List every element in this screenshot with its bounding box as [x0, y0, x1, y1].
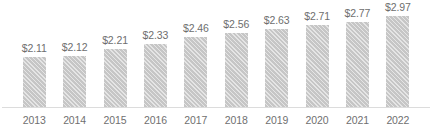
x-axis-label-2014: 2014: [54, 110, 94, 130]
x-axis-label-2020: 2020: [297, 110, 337, 130]
bar[interactable]: [346, 22, 369, 108]
bar[interactable]: [144, 44, 167, 108]
bar-value-label: $2.56: [216, 18, 256, 30]
bar[interactable]: [23, 57, 46, 108]
bar-chart: $2.11 $2.12 $2.21 $2.33 $2.46 $2.56: [0, 0, 432, 136]
bar-group-2014[interactable]: $2.12: [54, 0, 94, 108]
bar[interactable]: [184, 37, 207, 108]
bar-value-label: $2.63: [256, 14, 296, 26]
bar-group-2017[interactable]: $2.46: [176, 0, 216, 108]
bar[interactable]: [386, 16, 409, 108]
bar-value-label: $2.11: [14, 42, 54, 54]
bar-value-label: $2.97: [378, 1, 418, 13]
bar-group-2018[interactable]: $2.56: [216, 0, 256, 108]
bar[interactable]: [265, 29, 288, 108]
x-axis-label-2016: 2016: [135, 110, 175, 130]
plot-area: $2.11 $2.12 $2.21 $2.33 $2.46 $2.56: [0, 0, 432, 108]
bar-value-label: $2.12: [54, 41, 94, 53]
x-axis-label-2022: 2022: [378, 110, 418, 130]
bar-group-2016[interactable]: $2.33: [135, 0, 175, 108]
bar-group-2020[interactable]: $2.71: [297, 0, 337, 108]
bar-group-2019[interactable]: $2.63: [256, 0, 296, 108]
bar-value-label: $2.21: [95, 34, 135, 46]
bar[interactable]: [104, 49, 127, 108]
bar-series: $2.11 $2.12 $2.21 $2.33 $2.46 $2.56: [14, 0, 418, 108]
bar-value-label: $2.33: [135, 29, 175, 41]
x-axis-label-2019: 2019: [256, 110, 296, 130]
bar[interactable]: [225, 33, 248, 108]
bar-value-label: $2.77: [337, 7, 377, 19]
bar-group-2015[interactable]: $2.21: [95, 0, 135, 108]
x-axis-label-2017: 2017: [176, 110, 216, 130]
bar-group-2021[interactable]: $2.77: [337, 0, 377, 108]
x-axis-label-2018: 2018: [216, 110, 256, 130]
bar-group-2013[interactable]: $2.11: [14, 0, 54, 108]
x-axis-label-2021: 2021: [337, 110, 377, 130]
bar-value-label: $2.71: [297, 10, 337, 22]
bar[interactable]: [63, 56, 86, 108]
x-axis-line: [2, 107, 430, 108]
x-axis-category-labels: 2013 2014 2015 2016 2017 2018 2019 2020 …: [14, 110, 418, 130]
bar-value-label: $2.46: [176, 22, 216, 34]
x-axis-label-2013: 2013: [14, 110, 54, 130]
bar[interactable]: [306, 25, 329, 108]
bar-group-2022[interactable]: $2.97: [378, 0, 418, 108]
x-axis-label-2015: 2015: [95, 110, 135, 130]
